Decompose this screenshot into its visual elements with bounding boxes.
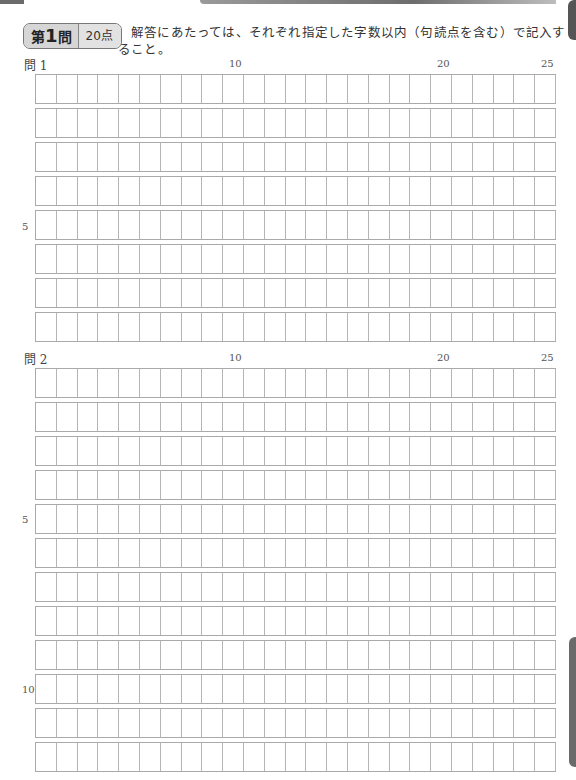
answer-cell[interactable] bbox=[57, 437, 78, 465]
answer-cell[interactable] bbox=[514, 313, 535, 341]
answer-cell[interactable] bbox=[452, 539, 473, 567]
answer-cell[interactable] bbox=[223, 675, 244, 703]
answer-cell[interactable] bbox=[119, 743, 140, 771]
answer-cell[interactable] bbox=[98, 75, 119, 103]
answer-cell[interactable] bbox=[98, 177, 119, 205]
answer-cell[interactable] bbox=[410, 709, 431, 737]
answer-cell[interactable] bbox=[452, 403, 473, 431]
answer-cell[interactable] bbox=[182, 641, 203, 669]
answer-cell[interactable] bbox=[452, 709, 473, 737]
answer-cell[interactable] bbox=[306, 75, 327, 103]
answer-cell[interactable] bbox=[494, 505, 515, 533]
answer-cell[interactable] bbox=[119, 573, 140, 601]
answer-cell[interactable] bbox=[348, 471, 369, 499]
answer-cell[interactable] bbox=[36, 369, 57, 397]
answer-cell[interactable] bbox=[265, 573, 286, 601]
answer-cell[interactable] bbox=[78, 177, 99, 205]
answer-cell[interactable] bbox=[161, 709, 182, 737]
answer-cell[interactable] bbox=[452, 743, 473, 771]
answer-cell[interactable] bbox=[265, 369, 286, 397]
answer-cell[interactable] bbox=[119, 437, 140, 465]
answer-cell[interactable] bbox=[473, 109, 494, 137]
answer-cell[interactable] bbox=[306, 245, 327, 273]
answer-cell[interactable] bbox=[140, 471, 161, 499]
answer-cell[interactable] bbox=[202, 675, 223, 703]
answer-cell[interactable] bbox=[140, 539, 161, 567]
answer-cell[interactable] bbox=[140, 675, 161, 703]
answer-cell[interactable] bbox=[265, 279, 286, 307]
answer-cell[interactable] bbox=[452, 437, 473, 465]
answer-cell[interactable] bbox=[348, 143, 369, 171]
answer-cell[interactable] bbox=[265, 313, 286, 341]
answer-cell[interactable] bbox=[265, 471, 286, 499]
answer-cell[interactable] bbox=[410, 369, 431, 397]
answer-cell[interactable] bbox=[57, 75, 78, 103]
answer-cell[interactable] bbox=[348, 437, 369, 465]
answer-cell[interactable] bbox=[306, 177, 327, 205]
answer-cell[interactable] bbox=[57, 539, 78, 567]
answer-cell[interactable] bbox=[431, 211, 452, 239]
answer-cell[interactable] bbox=[327, 211, 348, 239]
answer-cell[interactable] bbox=[410, 539, 431, 567]
answer-cell[interactable] bbox=[390, 245, 411, 273]
answer-cell[interactable] bbox=[78, 505, 99, 533]
answer-cell[interactable] bbox=[390, 641, 411, 669]
answer-cell[interactable] bbox=[57, 675, 78, 703]
answer-cell[interactable] bbox=[410, 177, 431, 205]
answer-cell[interactable] bbox=[410, 403, 431, 431]
answer-cell[interactable] bbox=[494, 245, 515, 273]
answer-cell[interactable] bbox=[244, 245, 265, 273]
answer-cell[interactable] bbox=[98, 641, 119, 669]
answer-cell[interactable] bbox=[119, 675, 140, 703]
answer-cell[interactable] bbox=[202, 471, 223, 499]
answer-cell[interactable] bbox=[223, 743, 244, 771]
answer-cell[interactable] bbox=[36, 177, 57, 205]
answer-cell[interactable] bbox=[514, 245, 535, 273]
answer-cell[interactable] bbox=[182, 607, 203, 635]
answer-cell[interactable] bbox=[182, 573, 203, 601]
answer-cell[interactable] bbox=[306, 143, 327, 171]
answer-cell[interactable] bbox=[473, 539, 494, 567]
answer-cell[interactable] bbox=[140, 437, 161, 465]
answer-cell[interactable] bbox=[140, 177, 161, 205]
answer-cell[interactable] bbox=[494, 403, 515, 431]
answer-cell[interactable] bbox=[119, 245, 140, 273]
answer-cell[interactable] bbox=[514, 573, 535, 601]
answer-cell[interactable] bbox=[494, 709, 515, 737]
answer-cell[interactable] bbox=[223, 471, 244, 499]
answer-cell[interactable] bbox=[410, 641, 431, 669]
answer-cell[interactable] bbox=[494, 437, 515, 465]
answer-cell[interactable] bbox=[182, 143, 203, 171]
answer-cell[interactable] bbox=[327, 437, 348, 465]
answer-cell[interactable] bbox=[78, 641, 99, 669]
answer-cell[interactable] bbox=[390, 607, 411, 635]
answer-cell[interactable] bbox=[369, 369, 390, 397]
answer-cell[interactable] bbox=[452, 471, 473, 499]
answer-cell[interactable] bbox=[369, 403, 390, 431]
answer-cell[interactable] bbox=[535, 177, 556, 205]
answer-cell[interactable] bbox=[514, 607, 535, 635]
answer-cell[interactable] bbox=[202, 573, 223, 601]
answer-cell[interactable] bbox=[223, 211, 244, 239]
answer-cell[interactable] bbox=[431, 607, 452, 635]
answer-cell[interactable] bbox=[223, 437, 244, 465]
answer-cell[interactable] bbox=[535, 109, 556, 137]
answer-cell[interactable] bbox=[140, 505, 161, 533]
answer-cell[interactable] bbox=[348, 313, 369, 341]
answer-cell[interactable] bbox=[119, 471, 140, 499]
answer-cell[interactable] bbox=[119, 369, 140, 397]
answer-cell[interactable] bbox=[36, 709, 57, 737]
answer-cell[interactable] bbox=[265, 177, 286, 205]
answer-cell[interactable] bbox=[306, 573, 327, 601]
answer-cell[interactable] bbox=[265, 403, 286, 431]
answer-cell[interactable] bbox=[410, 143, 431, 171]
answer-cell[interactable] bbox=[140, 709, 161, 737]
answer-cell[interactable] bbox=[265, 675, 286, 703]
answer-cell[interactable] bbox=[286, 143, 307, 171]
answer-cell[interactable] bbox=[265, 641, 286, 669]
answer-cell[interactable] bbox=[182, 279, 203, 307]
answer-cell[interactable] bbox=[390, 109, 411, 137]
answer-cell[interactable] bbox=[223, 109, 244, 137]
answer-cell[interactable] bbox=[494, 313, 515, 341]
answer-cell[interactable] bbox=[494, 641, 515, 669]
